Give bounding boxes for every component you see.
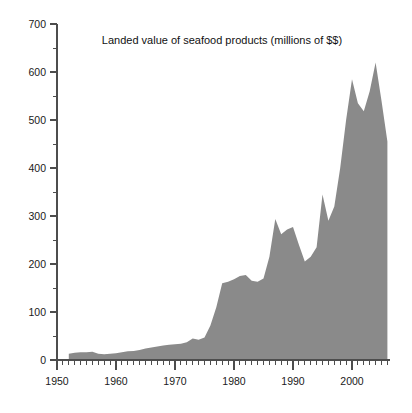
x-tick-label-1980: 1980 — [222, 375, 246, 387]
x-axis-tick-labels: 195019601970198019902000 — [45, 375, 364, 387]
chart-title: Landed value of seafood products (millio… — [102, 34, 342, 46]
y-tick-label-600: 600 — [28, 66, 46, 78]
data-area-group — [69, 62, 388, 360]
x-tick-label-1970: 1970 — [163, 375, 187, 387]
x-tick-label-1990: 1990 — [281, 375, 305, 387]
chart-container: Landed value of seafood products (millio… — [0, 0, 412, 413]
x-axis-ticks — [57, 360, 387, 370]
x-tick-label-2000: 2000 — [340, 375, 364, 387]
y-tick-label-200: 200 — [28, 258, 46, 270]
y-tick-label-100: 100 — [28, 306, 46, 318]
y-tick-label-400: 400 — [28, 162, 46, 174]
landed-value-area — [69, 62, 388, 360]
y-axis-tick-labels: 0100200300400500600700 — [28, 18, 46, 366]
y-tick-label-700: 700 — [28, 18, 46, 30]
chart-title-group: Landed value of seafood products (millio… — [102, 34, 342, 46]
y-tick-label-0: 0 — [40, 354, 46, 366]
x-tick-label-1960: 1960 — [104, 375, 128, 387]
y-tick-label-300: 300 — [28, 210, 46, 222]
y-tick-label-500: 500 — [28, 114, 46, 126]
y-axis-ticks — [50, 24, 57, 360]
x-tick-label-1950: 1950 — [45, 375, 69, 387]
area-chart: Landed value of seafood products (millio… — [0, 0, 412, 413]
